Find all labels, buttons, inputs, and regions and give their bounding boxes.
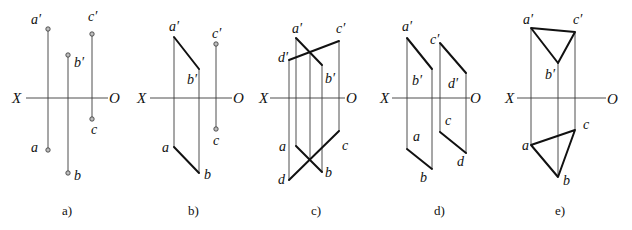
label-a: a [31, 140, 38, 155]
line-a-b [174, 147, 199, 173]
triangle-top-view [531, 130, 575, 177]
label-d-prime: d′ [448, 76, 459, 91]
label-b: b [204, 167, 211, 182]
line-c-prime-d-prime [440, 43, 466, 73]
label-b-prime: b′ [325, 71, 336, 86]
label-c-prime: c′ [336, 21, 346, 36]
panel-e: X O a′ c′ b′ c a b e) [504, 12, 618, 218]
point-c-prime [214, 42, 218, 46]
label-b: b [563, 173, 570, 188]
line-a-b [407, 149, 432, 169]
point-b-prime [66, 53, 70, 57]
line-a-prime-b-prime [174, 37, 199, 69]
label-a: a [162, 140, 169, 155]
label-b: b [74, 168, 81, 183]
caption-c: c) [311, 203, 321, 218]
label-a-prime: a′ [523, 12, 534, 27]
panel-a: X O a′ b′ c′ a b c a) [11, 9, 120, 218]
label-b-prime: b′ [545, 67, 556, 82]
line-a-prime-b-prime [407, 38, 432, 69]
label-a-prime: a′ [402, 19, 413, 34]
label-c-prime: c′ [430, 32, 440, 47]
panel-d: X O a′ b′ c′ d′ a c b d d) [379, 19, 481, 218]
label-c-prime: c′ [573, 12, 583, 27]
axis-label-x: X [379, 90, 390, 106]
label-b-prime: b′ [187, 72, 198, 87]
label-b: b [420, 170, 427, 185]
label-c: c [583, 117, 590, 132]
point-a-prime [46, 27, 50, 31]
label-c: c [213, 133, 220, 148]
label-d: d [278, 172, 286, 187]
label-a: a [522, 138, 529, 153]
axis-label-o: O [607, 91, 618, 107]
label-d: d [457, 154, 465, 169]
label-a-prime: a′ [292, 21, 303, 36]
panel-c: X O a′ c′ d′ b′ a c b d c) [258, 21, 357, 218]
label-b-prime: b′ [74, 55, 85, 70]
label-c: c [445, 113, 452, 128]
label-b: b [325, 165, 332, 180]
projection-diagram: X O a′ b′ c′ a b c a) X O a′ b′ c′ a [0, 0, 632, 230]
point-c-prime [90, 32, 94, 36]
axis-label-o: O [233, 90, 244, 106]
label-a-prime: a′ [169, 19, 180, 34]
axis-label-o: O [346, 90, 357, 106]
axis-label-o: O [109, 90, 120, 106]
panel-b: X O a′ b′ c′ a b c b) [136, 19, 244, 218]
label-a: a [413, 129, 420, 144]
label-a: a [279, 139, 286, 154]
axis-label-x: X [504, 90, 515, 106]
point-c [214, 127, 218, 131]
label-c-prime: c′ [212, 26, 222, 41]
point-b [66, 171, 70, 175]
label-a-prime: a′ [31, 12, 42, 27]
point-a [46, 148, 50, 152]
axis-label-o: O [470, 90, 481, 106]
label-b-prime: b′ [412, 73, 423, 88]
axis-label-x: X [136, 90, 147, 106]
label-c: c [342, 138, 349, 153]
label-d-prime: d′ [278, 50, 289, 65]
caption-d: d) [434, 203, 445, 218]
point-c [90, 117, 94, 121]
caption-b: b) [188, 203, 199, 218]
line-c-d [440, 132, 466, 153]
axis-label-x: X [258, 90, 269, 106]
label-c: c [91, 122, 98, 137]
axis-label-x: X [11, 90, 22, 106]
triangle-front-view [531, 28, 575, 63]
caption-a: a) [62, 203, 72, 218]
label-c-prime: c′ [88, 9, 98, 24]
caption-e: e) [555, 203, 565, 218]
